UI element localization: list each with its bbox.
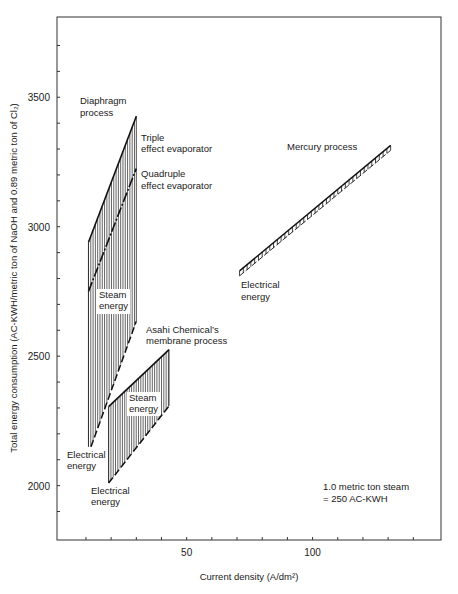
label-mercury-process: Mercury process <box>287 141 357 152</box>
label-electrical-energy-2a: Electrical <box>91 485 130 496</box>
y-tick-label-2000: 2000 <box>28 481 51 492</box>
label-diaphragm-process-2: process <box>80 107 114 118</box>
label-steam-energy-1b: energy <box>99 300 128 311</box>
triple-effect-line <box>88 116 136 242</box>
mercury-top-line <box>240 145 391 271</box>
label-quadruple-1: Quadruple <box>141 168 185 179</box>
label-electrical-energy-3b: energy <box>241 291 270 302</box>
label-electrical-energy-2b: energy <box>91 496 120 507</box>
label-asahi-2: membrane process <box>146 335 228 346</box>
note-steam-conversion-2: = 250 AC-KWH <box>323 493 388 504</box>
label-steam-energy-2b: energy <box>129 403 158 414</box>
x-tick-label-100: 100 <box>304 547 321 558</box>
x-axis-title: Current density (A/dm²) <box>200 571 299 582</box>
y-axis-title: Total energy consumption (AC-KWH/metric … <box>8 103 19 453</box>
label-steam-energy-2a: Steam <box>129 392 157 403</box>
label-triple-1: Triple <box>141 132 164 143</box>
label-electrical-energy-1b: energy <box>67 460 96 471</box>
label-diaphragm-process-1: Diaphragm <box>80 95 127 106</box>
label-electrical-energy-1a: Electrical <box>67 449 106 460</box>
y-tick-label-3500: 3500 <box>28 92 51 103</box>
label-asahi-1: Asahi Chemical’s <box>146 324 219 335</box>
y-tick-label-2500: 2500 <box>28 351 51 362</box>
label-electrical-energy-3a: Electrical <box>241 279 280 290</box>
label-quadruple-2: effect evaporator <box>141 180 212 191</box>
x-tick-label-50: 50 <box>181 547 193 558</box>
y-axis-ticks: 2000250030003500 <box>28 45 60 511</box>
note-steam-conversion-1: 1.0 metric ton steam <box>323 481 409 492</box>
label-steam-energy-1a: Steam <box>99 289 127 300</box>
mercury-bottom-line <box>240 150 391 276</box>
y-tick-label-3000: 3000 <box>28 222 51 233</box>
energy-consumption-chart: 50100 2000250030003500 Current density (… <box>0 0 458 594</box>
label-triple-2: effect evaporator <box>141 143 212 154</box>
